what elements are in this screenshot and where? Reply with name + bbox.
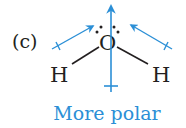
- oxygen-atom: O: [99, 31, 116, 55]
- panel-label: (c): [12, 30, 37, 52]
- left-hydrogen-atom: H: [50, 63, 68, 87]
- right-hydrogen-atom: H: [152, 63, 170, 87]
- left-bond-dipole-arrow: [52, 26, 93, 50]
- molecule-figure: (c) O H H More polar: [0, 0, 186, 128]
- right-bond-dipole-arrow: [131, 25, 172, 50]
- left-bond: [72, 47, 99, 64]
- water-dipole-diagram: (c) O H H More polar: [0, 0, 186, 128]
- right-bond: [117, 47, 148, 64]
- caption: More polar: [53, 102, 161, 124]
